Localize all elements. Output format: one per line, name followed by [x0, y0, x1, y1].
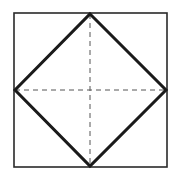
square-diamond-diagram [0, 0, 176, 175]
diagram-canvas [0, 0, 176, 175]
